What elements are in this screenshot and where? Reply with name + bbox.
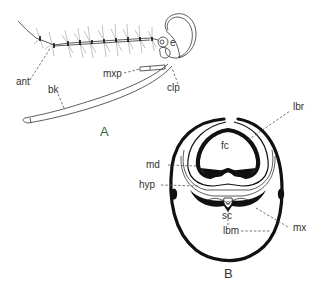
label-mx: mx <box>293 222 306 233</box>
proboscis <box>23 64 172 123</box>
maxillary-palp <box>140 65 165 71</box>
label-mxp: mxp <box>103 68 122 79</box>
mouthparts-diagram: e ant mxp clp bk A <box>0 0 325 296</box>
label-fc: fc <box>221 140 229 151</box>
label-sc: sc <box>222 210 232 221</box>
label-lbm: lbm <box>223 225 239 236</box>
panel-b: lbr fc md hyp sc mx lbm B <box>139 101 306 281</box>
label-e: e <box>170 37 176 48</box>
label-lbr: lbr <box>293 101 305 112</box>
head <box>158 14 196 58</box>
panel-label-b: B <box>224 266 233 281</box>
panel-a: e ant mxp clp bk A <box>16 14 196 139</box>
antenna <box>18 21 158 48</box>
label-ant: ant <box>16 76 30 87</box>
label-clp: clp <box>167 82 180 93</box>
label-md: md <box>146 159 160 170</box>
label-hyp: hyp <box>139 179 156 190</box>
panel-label-a: A <box>100 124 109 139</box>
label-bk: bk <box>48 84 60 95</box>
